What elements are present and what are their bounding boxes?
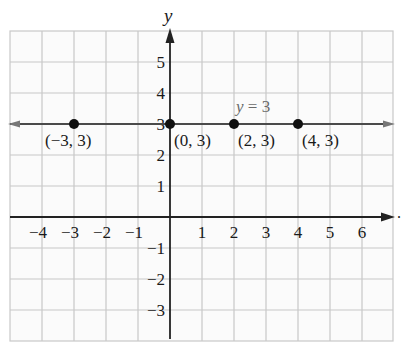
y-tick-label: −1 [147, 239, 165, 258]
grid [10, 31, 393, 341]
point-label: (4, 3) [302, 131, 339, 150]
x-tick-label: −1 [125, 223, 143, 242]
data-point [69, 119, 79, 129]
y-tick-label: −3 [147, 301, 165, 320]
y-axis-label: y [162, 5, 173, 26]
x-tick-label: 3 [262, 223, 271, 242]
point-label: (−3, 3) [45, 131, 91, 150]
data-point [293, 119, 303, 129]
x-tick-label: 2 [230, 223, 239, 242]
x-tick-label: 4 [294, 223, 303, 242]
y-tick-label: −2 [147, 270, 165, 289]
y-tick-label: 1 [157, 177, 166, 196]
x-tick-label: −2 [93, 223, 111, 242]
trailing-mark: . [397, 204, 401, 221]
data-point [229, 119, 239, 129]
y-tick-label: 5 [157, 53, 166, 72]
equation-rest: = 3 [244, 97, 271, 116]
point-label: (2, 3) [238, 131, 275, 150]
coordinate-plane: −4−3−2−112345654321−1−2−3 (−3, 3)(0, 3)(… [0, 0, 401, 350]
point-label: (0, 3) [174, 131, 211, 150]
data-series: (−3, 3)(0, 3)(2, 3)(4, 3) [8, 119, 395, 150]
equation-var: y [234, 97, 244, 116]
x-tick-label: 1 [198, 223, 207, 242]
equation-label: y = 3 [234, 97, 270, 116]
data-point [165, 119, 175, 129]
x-tick-label: 6 [358, 223, 367, 242]
x-tick-label: −3 [61, 223, 79, 242]
x-tick-label: −4 [29, 223, 48, 242]
y-tick-label: 2 [157, 146, 166, 165]
x-tick-label: 5 [326, 223, 335, 242]
y-tick-label: 4 [157, 84, 166, 103]
